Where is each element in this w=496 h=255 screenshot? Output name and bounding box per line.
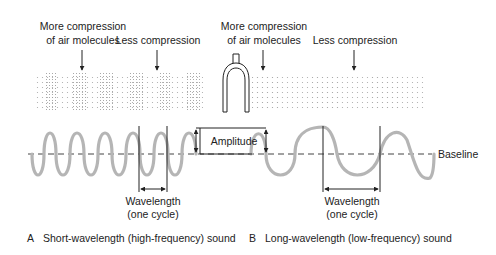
panel-b-molecules: [252, 73, 424, 111]
wavelength-a-sublabel: (one cycle): [127, 208, 178, 220]
panel-b-less-compression-label: Less compression: [313, 34, 398, 46]
amplitude-indicator: Amplitude: [196, 128, 266, 154]
wavelength-b-label: Wavelength: [324, 195, 379, 207]
caption-a: Short-wavelength (high-frequency) sound: [43, 232, 236, 244]
panel-a-less-compression-label: Less compression: [116, 34, 201, 46]
caption-a-letter: A: [27, 232, 34, 244]
panel-a-molecules: [33, 73, 203, 111]
caption-b: Long-wavelength (low-frequency) sound: [265, 232, 452, 244]
sound-wave-diagram: More compression of air molecules Less c…: [0, 0, 496, 255]
baseline-label: Baseline: [438, 148, 478, 160]
wavelength-b-sublabel: (one cycle): [326, 208, 377, 220]
panel-a-more-compression-label: More compression: [40, 20, 127, 32]
panel-b-more-compression-label-2: of air molecules: [227, 34, 301, 46]
long-wave: [251, 127, 434, 178]
tuning-fork-icon: [223, 54, 249, 112]
caption-b-letter: B: [249, 232, 256, 244]
panel-b-more-compression-label: More compression: [221, 20, 308, 32]
panel-a-more-compression-label-2: of air molecules: [46, 34, 120, 46]
amplitude-label: Amplitude: [211, 135, 258, 147]
wavelength-a-label: Wavelength: [125, 195, 180, 207]
